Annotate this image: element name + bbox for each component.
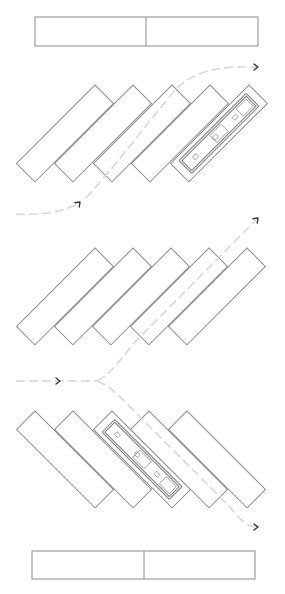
row-3	[17, 411, 266, 508]
bottom-bar	[32, 551, 255, 579]
path-entry-row1	[16, 203, 80, 215]
top-bar	[35, 17, 258, 46]
row-2	[17, 248, 266, 345]
arrowhead-icon	[75, 200, 82, 207]
row-1	[17, 85, 268, 182]
parking-rows	[17, 85, 268, 508]
parking-diagram	[0, 0, 285, 594]
